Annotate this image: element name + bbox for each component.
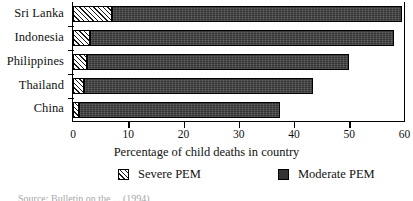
y-axis-label-china: China <box>34 102 64 115</box>
bar-segment-moderate-pem <box>90 30 394 46</box>
x-axis-tick-label: 60 <box>399 129 411 141</box>
solid-dark-swatch-icon <box>278 169 289 180</box>
x-axis-title: Percentage of child deaths in country <box>0 146 413 159</box>
y-axis-label-indonesia: Indonesia <box>15 31 65 44</box>
x-axis-tick-label: 30 <box>233 129 245 141</box>
x-axis-tick-label: 40 <box>288 129 300 141</box>
y-axis-tick <box>68 50 74 51</box>
bar-indonesia <box>73 30 406 46</box>
x-axis-tick-label: 50 <box>344 129 356 141</box>
bar-segment-moderate-pem <box>84 78 313 94</box>
bar-segment-severe-pem <box>73 6 112 22</box>
bar-thailand <box>73 78 406 94</box>
x-axis-tick-label: 20 <box>178 129 190 141</box>
y-axis-category-labels: Sri Lanka Indonesia Philippines Thailand… <box>0 0 70 125</box>
y-axis-label-philippines: Philippines <box>7 55 64 68</box>
legend-label-moderate-pem: Moderate PEM <box>298 168 375 181</box>
bar-segment-moderate-pem <box>79 102 281 118</box>
bar-segment-moderate-pem <box>112 6 402 22</box>
plot-area: 0102030405060 <box>72 2 405 122</box>
y-axis-label-sri-lanka: Sri Lanka <box>14 7 64 20</box>
hatched-swatch-icon <box>118 169 129 180</box>
y-axis-tick <box>68 26 74 27</box>
y-axis-tick <box>68 74 74 75</box>
bar-segment-severe-pem <box>73 78 84 94</box>
bar-segment-severe-pem <box>73 54 87 70</box>
bar-sri-lanka <box>73 6 406 22</box>
bar-segment-severe-pem <box>73 30 90 46</box>
chart-legend: Severe PEM Moderate PEM <box>0 168 413 184</box>
x-axis-tick-label: 0 <box>70 129 76 141</box>
y-axis-tick <box>68 98 74 99</box>
y-axis-label-thailand: Thailand <box>19 79 64 92</box>
bar-chart: Sri Lanka Indonesia Philippines Thailand… <box>0 0 413 201</box>
x-axis-tick-label: 10 <box>123 129 135 141</box>
bar-china <box>73 102 406 118</box>
legend-item-severe-pem: Severe PEM <box>118 168 201 181</box>
source-note: Source: Bulletin on the ... (1994) <box>18 193 150 201</box>
legend-item-moderate-pem: Moderate PEM <box>278 168 375 181</box>
bar-segment-moderate-pem <box>87 54 350 70</box>
bar-philippines <box>73 54 406 70</box>
legend-label-severe-pem: Severe PEM <box>138 168 201 181</box>
